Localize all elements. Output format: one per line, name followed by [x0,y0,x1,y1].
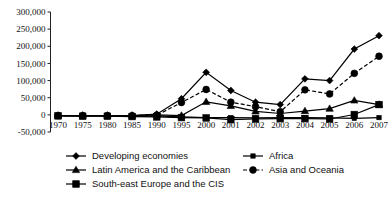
legend-item-label: Asia and Oceania [269,164,345,175]
x-tick-label: 1995 [172,120,191,130]
legend-item-south-east-europe-and-the-cis[interactable]: South-east Europe and the CIS [66,178,224,189]
x-tick-label: 1980 [98,120,117,130]
data-point-square [129,113,136,120]
data-point-square [178,114,185,121]
data-point-square [203,115,210,122]
data-point-circle [227,99,234,106]
line-chart: 300,000250,000200,000150,000100,00050,00… [0,0,391,202]
data-point-square [73,181,80,188]
data-point-square [326,116,333,123]
y-tick-label: 50,000 [21,93,46,103]
legend-item-developing-economies[interactable]: Developing economies [66,150,188,161]
data-point-square-small [251,154,255,158]
legend-item-label: South-east Europe and the CIS [92,178,224,189]
data-point-square [302,115,309,122]
x-tick-label: 1975 [74,120,93,130]
data-point-square [252,116,259,123]
legend-item-asia-and-oceania[interactable]: Asia and Oceania [243,164,345,175]
series-south-east-europe-and-the-cis [55,101,383,123]
data-point-triangle [351,97,358,103]
data-point-square [277,115,284,122]
data-point-diamond [376,32,383,39]
data-point-square [79,113,86,120]
data-point-square [228,116,235,123]
y-tick-label: 0 [41,110,46,120]
data-point-circle [250,167,257,174]
x-axis: 1970197519801985199019952000200120022003… [49,120,389,130]
x-tick-label: 2006 [345,120,364,130]
data-point-square [104,113,111,120]
data-point-circle [302,86,309,93]
y-tick-label: 150,000 [16,59,46,69]
data-point-square [351,111,358,118]
data-point-circle [178,99,185,106]
data-point-triangle [202,98,209,104]
y-axis: 300,000250,000200,000150,000100,00050,00… [16,7,50,137]
data-point-diamond [73,153,80,160]
data-point-circle [277,108,284,115]
x-tick-label: 1970 [49,120,68,130]
x-tick-label: 2007 [370,120,389,130]
data-point-square-small [377,115,381,119]
data-point-square [55,113,62,120]
series-latin-america-and-the-caribbean [54,97,382,118]
data-point-circle [351,70,358,77]
data-point-circle [203,86,210,93]
legend-item-label: Developing economies [92,150,188,161]
y-tick-label: 100,000 [16,76,46,86]
x-tick-label: 1985 [123,120,142,130]
data-point-square [153,114,160,121]
y-tick-label: 300,000 [16,7,46,17]
data-point-circle [252,103,259,110]
y-tick-label: 200,000 [16,41,46,51]
legend-item-latin-america-and-the-caribbean[interactable]: Latin America and the Caribbean [66,164,230,175]
series-asia-and-oceania [55,53,383,119]
chart-figure: 300,000250,000200,000150,000100,00050,00… [0,0,391,202]
chart-legend: Developing economiesAfricaLatin America … [66,150,345,189]
series-layer [54,32,382,123]
y-tick-label: -50,000 [18,127,46,137]
data-point-circle [376,53,383,60]
legend-item-africa[interactable]: Africa [243,150,294,161]
data-point-circle [326,91,333,98]
y-tick-label: 250,000 [16,24,46,34]
legend-item-label: Africa [269,150,294,161]
x-tick-label: 1990 [148,120,167,130]
series-developing-economies [55,32,383,119]
data-point-square [376,101,383,108]
legend-item-label: Latin America and the Caribbean [92,164,230,175]
